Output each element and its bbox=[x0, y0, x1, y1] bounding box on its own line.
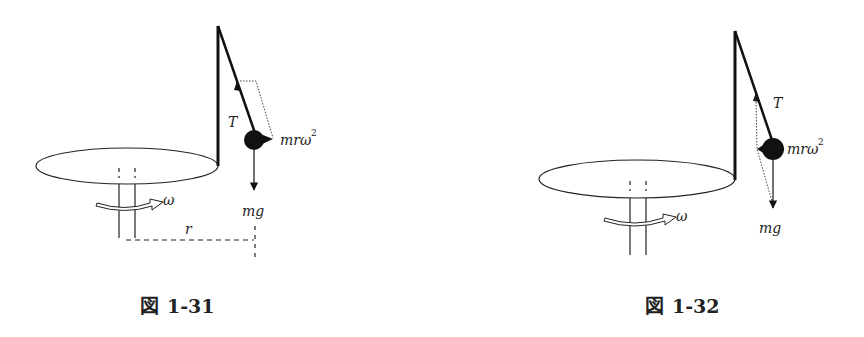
force-parallelogram bbox=[240, 81, 273, 138]
centrifugal-sup: 2 bbox=[311, 128, 317, 138]
omega-label: ω bbox=[163, 192, 175, 208]
caption-1-32: 図 1-32 bbox=[645, 295, 720, 317]
turntable-disc bbox=[36, 148, 218, 184]
centrifugal-label: mrω bbox=[787, 141, 819, 157]
rotation-arrow-icon bbox=[96, 199, 163, 211]
svg-text:図: 図 bbox=[140, 295, 159, 317]
omega-label: ω bbox=[676, 208, 688, 224]
string bbox=[735, 31, 772, 140]
centrifugal-arrowhead bbox=[258, 133, 273, 146]
tension-label: T bbox=[228, 114, 239, 130]
gravity-label: mg bbox=[759, 220, 781, 236]
figure-1-32: ω T mrω 2 mg 図 1-32 bbox=[539, 31, 824, 317]
caption-1-31: 図 1-31 bbox=[140, 295, 215, 317]
rotation-arrow-icon bbox=[604, 214, 676, 226]
figure-1-31: ω T mrω 2 mg r 図 1-31 bbox=[36, 26, 317, 317]
svg-text:図: 図 bbox=[645, 295, 664, 317]
svg-text:1-32: 1-32 bbox=[672, 295, 720, 317]
diagram-canvas: ω T mrω 2 mg r 図 1-31 bbox=[0, 0, 864, 337]
turntable-disc bbox=[539, 160, 735, 198]
tension-label: T bbox=[773, 95, 784, 111]
centrifugal-sup: 2 bbox=[818, 137, 824, 147]
svg-text:1-31: 1-31 bbox=[167, 295, 215, 317]
gravity-label: mg bbox=[242, 203, 264, 219]
radius-label: r bbox=[185, 221, 193, 237]
centrifugal-label: mrω bbox=[280, 132, 312, 148]
